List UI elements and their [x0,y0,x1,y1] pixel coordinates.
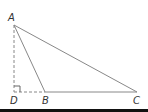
bottom-border-bar [0,109,148,112]
label-b: B [42,95,49,106]
segment-ac [14,25,137,92]
label-a: A [7,12,15,23]
segment-ab [14,25,45,92]
label-d: D [10,95,18,106]
triangle-diagram: A D B C [0,0,148,112]
label-c: C [133,95,140,106]
right-angle-marker [14,86,20,92]
